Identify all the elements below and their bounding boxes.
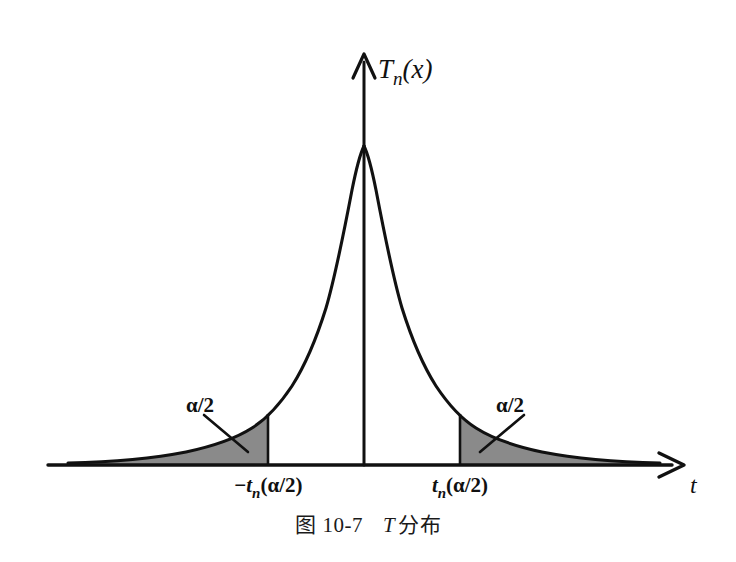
right-tail-shaded-region xyxy=(460,414,660,465)
x-axis-label: t xyxy=(690,472,698,498)
right-critical-value-label: tn(α/2) xyxy=(432,473,488,501)
y-axis-label-subscript: n xyxy=(393,68,403,89)
t-distribution-plot: Tn(x) t α/2 α/2 −tn(α/2) tn(α/2) xyxy=(0,0,736,562)
right-critical-subscript: n xyxy=(438,485,446,501)
figure-caption: 图10-7T分布 xyxy=(0,508,736,538)
left-alpha-label: α/2 xyxy=(186,393,214,417)
left-critical-main: −t xyxy=(234,473,254,497)
left-critical-subscript: n xyxy=(252,485,260,501)
left-critical-value-label: −tn(α/2) xyxy=(234,473,303,501)
y-axis-label-argument: (x) xyxy=(403,54,433,84)
figure-root: Tn(x) t α/2 α/2 −tn(α/2) tn(α/2) 图10-7T分… xyxy=(0,0,736,562)
right-critical-argument: (α/2) xyxy=(446,473,488,497)
caption-word: 分布 xyxy=(398,513,441,537)
caption-label: 图 xyxy=(295,513,317,537)
caption-symbol: T xyxy=(383,513,395,537)
left-critical-argument: (α/2) xyxy=(260,473,302,497)
caption-number: 10-7 xyxy=(322,513,363,537)
y-axis-label: Tn(x) xyxy=(378,54,433,89)
left-tail-shaded-region xyxy=(68,414,268,465)
right-alpha-label: α/2 xyxy=(496,393,524,417)
density-curve-left xyxy=(68,146,364,463)
